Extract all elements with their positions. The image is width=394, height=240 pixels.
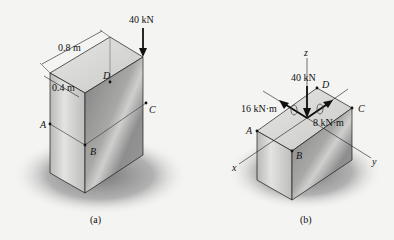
y-axis-label: y xyxy=(371,156,377,167)
label-b-b: B xyxy=(296,150,302,161)
label-c-b: C xyxy=(358,103,365,114)
label-a-b: A xyxy=(245,125,253,136)
point-d-a xyxy=(109,81,112,84)
caption-a: (a) xyxy=(90,214,101,226)
label-b-a: B xyxy=(90,146,96,157)
label-c-a: C xyxy=(149,104,156,115)
dim-length-label: 0.8 m xyxy=(58,42,81,53)
moment-arrowhead-16 xyxy=(279,100,289,109)
label-d-b: D xyxy=(321,79,330,90)
moment-label-8: 8 kN·m xyxy=(313,117,344,128)
point-c-b xyxy=(351,107,354,110)
figure-b: z x y 40 kN 16 kN·m 8 kN·m D C A B (b) xyxy=(227,47,383,226)
figure-a: 0.8 m 0.4 m 40 kN D C A B (a) xyxy=(12,14,188,226)
dim-ext-length-1 xyxy=(40,63,50,73)
z-axis-label: z xyxy=(303,47,308,58)
label-a-a: A xyxy=(39,119,47,130)
point-a-a xyxy=(49,123,52,126)
label-d-a: D xyxy=(102,70,111,81)
point-d-b xyxy=(316,87,319,90)
point-b-b xyxy=(291,150,294,153)
caption-b: (b) xyxy=(300,214,312,226)
stress-diagram: 0.8 m 0.4 m 40 kN D C A B (a) z x y xyxy=(0,0,394,240)
moment-label-16: 16 kN·m xyxy=(241,103,277,114)
point-b-a xyxy=(84,144,87,147)
point-c-a xyxy=(145,102,148,105)
dim-width-label: 0.4 m xyxy=(52,82,75,93)
point-a-b xyxy=(256,130,259,133)
dim-ext-length-2 xyxy=(100,30,110,37)
load-label-a: 40 kN xyxy=(129,14,154,25)
x-axis-label: x xyxy=(231,162,237,173)
load-label-b: 40 kN xyxy=(291,72,316,83)
